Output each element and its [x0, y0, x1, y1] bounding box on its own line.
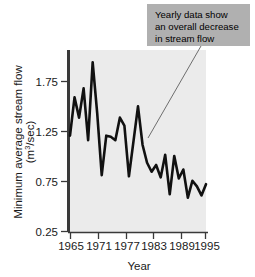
x-tick-label-1983: 1983 — [141, 240, 167, 252]
y-axis-title: Minimum average stream flow (m3/sec) — [12, 65, 36, 219]
x-tick-label-1989: 1989 — [169, 240, 195, 252]
x-tick-label-1995: 1995 — [194, 240, 220, 252]
x-axis-title: Year — [127, 260, 150, 272]
y-axis-unit-pre: (m — [24, 150, 36, 163]
y-tick-label-025: 0.25 — [36, 226, 58, 238]
x-tick-label-1971: 1971 — [86, 240, 112, 252]
stream-flow-figure: 1.75 1.25 0.75 0.25 1965 1971 1977 1983 … — [0, 0, 255, 277]
y-axis-unit-post: /sec) — [24, 121, 36, 146]
y-tick-label-175: 1.75 — [36, 76, 58, 88]
callout-line-2: an overall decrease — [155, 21, 239, 32]
y-axis-title-line1: Minimum average stream flow — [12, 65, 24, 219]
line-chart-svg: 1.75 1.25 0.75 0.25 1965 1971 1977 1983 … — [0, 0, 255, 277]
x-tick-label-1977: 1977 — [114, 240, 140, 252]
callout-line-3: in stream flow — [155, 33, 214, 44]
callout-line-1: Yearly data show — [155, 9, 228, 20]
x-tick-label-1965: 1965 — [58, 240, 84, 252]
y-axis-title-line2: (m3/sec) — [23, 121, 36, 164]
y-tick-label-075: 0.75 — [36, 176, 58, 188]
y-tick-label-125: 1.25 — [36, 126, 58, 138]
